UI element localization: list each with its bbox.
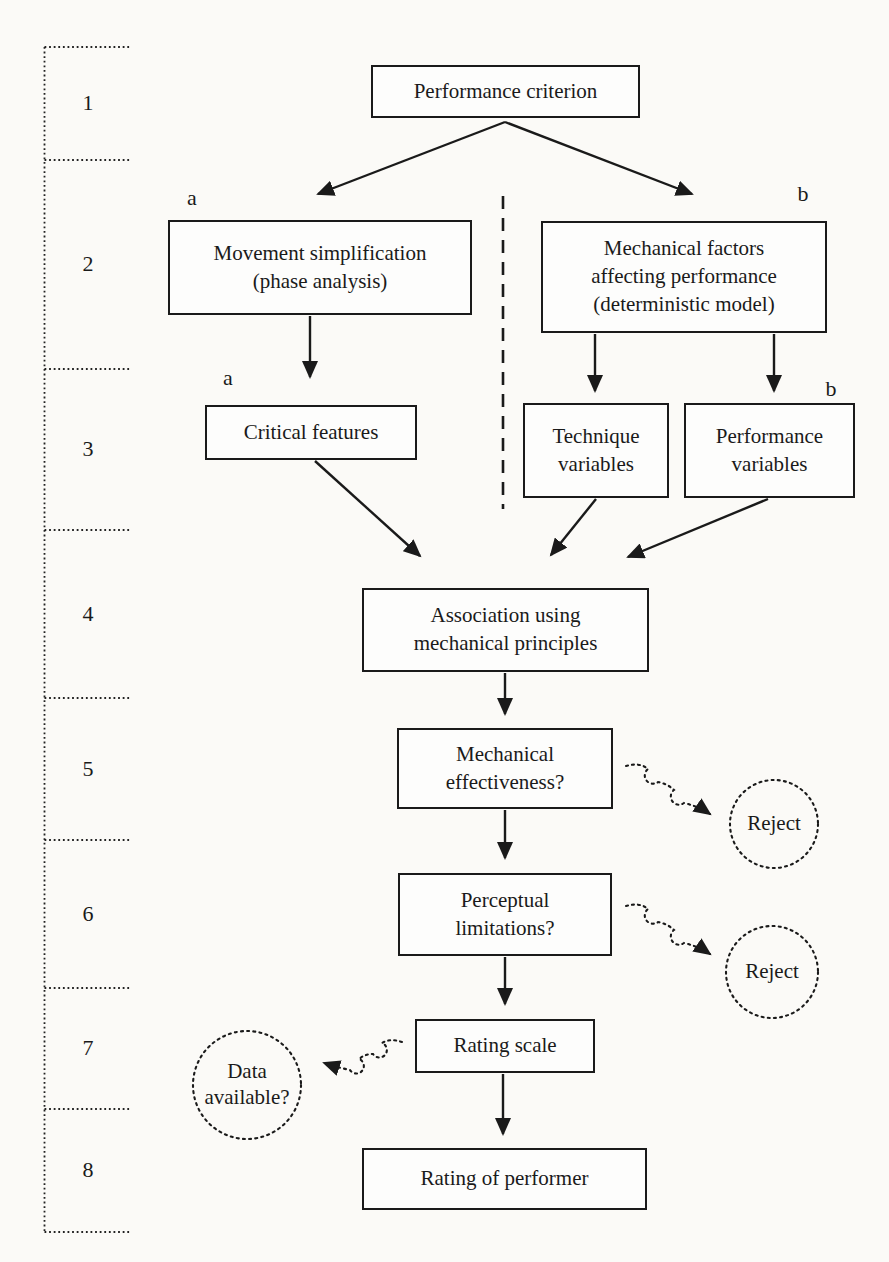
stage-number-1: 1 — [83, 90, 94, 116]
curly-arrow-rating-scale-to-data — [324, 1040, 402, 1073]
data-available-label: Data available? — [195, 1059, 299, 1110]
stage-number-2: 2 — [83, 251, 94, 277]
stage-number-7: 7 — [83, 1035, 94, 1061]
stage-number-4: 4 — [83, 601, 94, 627]
arrow-performance-vars-to-association — [628, 499, 768, 557]
box-text-line: mechanical principles — [414, 630, 598, 658]
box-mechanical-effectiveness: Mechanical effectiveness? — [397, 728, 613, 809]
stage-number-6: 6 — [83, 901, 94, 927]
box-text-line: Critical features — [244, 419, 379, 447]
callout-text-line: Reject — [747, 811, 801, 837]
reject-label-2: Reject — [728, 959, 816, 985]
box-movement-simplification: Movement simplification (phase analysis) — [168, 220, 472, 315]
box-text-line: Rating scale — [453, 1032, 556, 1060]
box-text-line: Mechanical — [456, 741, 554, 769]
box-association-mechanical-principles: Association using mechanical principles — [362, 588, 649, 672]
callout-text-line: Data — [227, 1059, 267, 1085]
callout-text-line: Reject — [745, 959, 799, 985]
branch-label-b-row2: b — [798, 181, 809, 207]
arrow-criterion-to-movement — [318, 122, 505, 194]
arrow-criterion-to-mechanical-factors — [505, 122, 692, 194]
box-text-line: Performance — [716, 423, 823, 451]
box-rating-of-performer: Rating of performer — [362, 1148, 647, 1210]
stage-number-8: 8 — [83, 1157, 94, 1183]
box-text-line: (phase analysis) — [253, 268, 388, 296]
box-text-line: variables — [558, 451, 634, 479]
branch-label-b-row3: b — [826, 376, 837, 402]
box-text-line: effectiveness? — [446, 769, 565, 797]
box-text-line: Performance criterion — [414, 78, 598, 106]
box-text-line: variables — [732, 451, 808, 479]
branch-label-a-row3: a — [223, 365, 233, 391]
curly-arrow-effectiveness-to-reject — [626, 765, 710, 814]
curly-arrow-limitations-to-reject — [626, 905, 710, 954]
box-text-line: affecting performance — [591, 263, 777, 291]
box-text-line: Perceptual — [461, 887, 550, 915]
arrow-critical-features-to-association — [315, 461, 420, 556]
box-performance-criterion: Performance criterion — [371, 65, 640, 118]
box-technique-variables: Technique variables — [523, 403, 669, 498]
box-mechanical-factors: Mechanical factors affecting performance… — [541, 221, 827, 333]
arrow-technique-to-association — [551, 499, 596, 555]
box-critical-features: Critical features — [205, 405, 417, 460]
reject-label-1: Reject — [732, 811, 816, 837]
box-text-line: Mechanical factors — [604, 235, 764, 263]
stage-number-3: 3 — [83, 436, 94, 462]
callout-text-line: available? — [204, 1085, 289, 1111]
box-text-line: (deterministic model) — [593, 291, 774, 319]
stage-number-5: 5 — [83, 756, 94, 782]
box-text-line: limitations? — [455, 915, 554, 943]
box-performance-variables: Performance variables — [684, 403, 855, 498]
box-text-line: Movement simplification — [214, 240, 427, 268]
branch-label-a-row2: a — [187, 185, 197, 211]
box-perceptual-limitations: Perceptual limitations? — [398, 873, 612, 956]
box-text-line: Association using — [431, 602, 581, 630]
box-text-line: Technique — [552, 423, 639, 451]
box-rating-scale: Rating scale — [415, 1019, 595, 1073]
box-text-line: Rating of performer — [421, 1165, 589, 1193]
